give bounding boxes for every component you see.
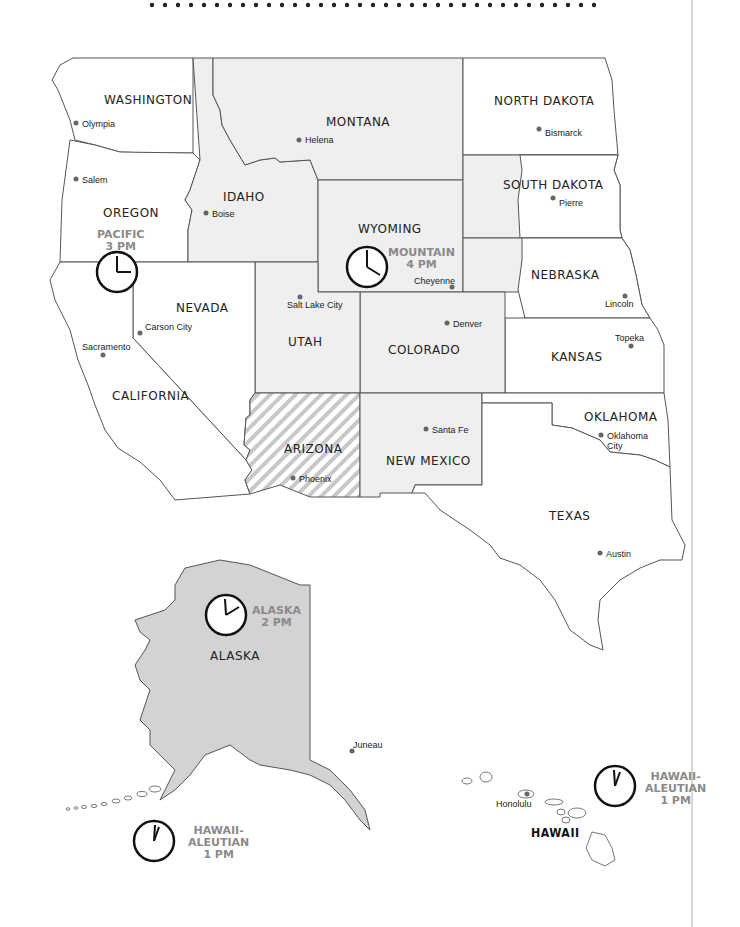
city-topeka: Topeka — [615, 333, 644, 343]
label-hawaii: HAWAII — [531, 825, 580, 840]
city-olympia: Olympia — [82, 119, 115, 129]
label-new-mexico: NEW MEXICO — [386, 454, 471, 468]
clock-icon-hawaii-aleutian-left — [134, 821, 174, 861]
clock-icon-alaska — [206, 595, 246, 635]
label-wyoming: WYOMING — [358, 222, 422, 236]
city-denver: Denver — [453, 319, 482, 329]
city-honolulu: Honolulu — [496, 799, 532, 809]
state-new-mexico — [360, 393, 482, 497]
clock-icon-pacific — [97, 252, 137, 292]
city-cheyenne: Cheyenne — [414, 276, 455, 286]
city-sacramento: Sacramento — [82, 342, 131, 352]
city-pierre: Pierre — [559, 198, 583, 208]
city-salt-lake-city: Salt Lake City — [287, 300, 343, 310]
zone-label-pacific: PACIFIC 3 PM — [97, 229, 144, 253]
zone-time-hawaii-aleutian-right: 1 PM — [645, 795, 706, 807]
label-california: CALIFORNIA — [112, 389, 189, 403]
label-south-dakota: SOUTH DAKOTA — [503, 178, 604, 192]
label-montana: MONTANA — [326, 115, 390, 129]
zone-label-alaska: ALASKA 2 PM — [252, 605, 301, 629]
city-bismarck: Bismarck — [545, 128, 582, 138]
zone-label-hawaii-aleutian-left: HAWAII- ALEUTIAN 1 PM — [188, 825, 249, 861]
label-arizona: ARIZONA — [284, 442, 342, 456]
city-juneau: Juneau — [353, 740, 383, 750]
label-texas: TEXAS — [549, 509, 590, 523]
zone-time-alaska: 2 PM — [252, 617, 301, 629]
city-boise: Boise — [212, 209, 235, 219]
time-zone-map — [0, 0, 740, 927]
city-phoenix: Phoenix — [299, 474, 332, 484]
label-washington: WASHINGTON — [104, 93, 192, 107]
label-oregon: OREGON — [103, 206, 159, 220]
city-lincoln: Lincoln — [605, 299, 634, 309]
city-santa-fe: Santa Fe — [432, 425, 469, 435]
label-utah: UTAH — [288, 335, 322, 349]
zone-label-mountain: MOUNTAIN 4 PM — [388, 247, 455, 271]
label-kansas: KANSAS — [551, 350, 603, 364]
city-helena: Helena — [305, 135, 334, 145]
clock-icon-mountain — [347, 247, 387, 287]
label-colorado: COLORADO — [388, 343, 460, 357]
label-north-dakota: NORTH DAKOTA — [494, 94, 595, 108]
city-oklahoma-city-line2: City — [607, 441, 623, 451]
label-idaho: IDAHO — [223, 190, 265, 204]
label-alaska: ALASKA — [210, 649, 260, 663]
zone-time-mountain: 4 PM — [388, 259, 455, 271]
city-salem: Salem — [82, 175, 108, 185]
city-carson-city: Carson City — [145, 322, 192, 332]
zone-label-hawaii-aleutian-right: HAWAII- ALEUTIAN 1 PM — [645, 771, 706, 807]
label-nevada: NEVADA — [176, 301, 228, 315]
label-nebraska: NEBRASKA — [531, 268, 599, 282]
city-austin: Austin — [606, 549, 631, 559]
zone-time-pacific: 3 PM — [97, 241, 144, 253]
city-oklahoma-city-line1: Oklahoma — [607, 431, 648, 441]
label-oklahoma: OKLAHOMA — [584, 410, 658, 424]
state-alaska — [135, 560, 370, 830]
clock-icon-hawaii-aleutian-right — [595, 766, 635, 806]
zone-time-hawaii-aleutian-left: 1 PM — [188, 849, 249, 861]
